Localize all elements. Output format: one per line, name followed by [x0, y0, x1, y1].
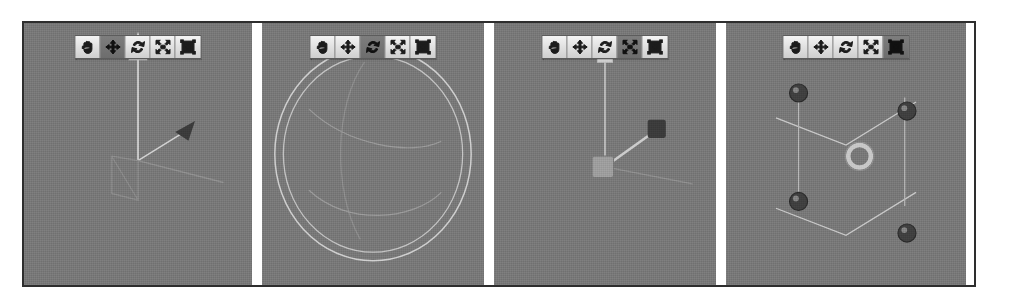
axis-z-arrow-head — [175, 121, 195, 141]
corner-handle-bottom-right[interactable] — [898, 224, 916, 242]
hand-icon — [314, 39, 331, 55]
rotation-ring-y — [309, 109, 441, 148]
rotate-icon — [364, 39, 381, 55]
panel-strip — [24, 23, 974, 285]
hand-icon — [79, 39, 96, 55]
rotate-icon — [837, 39, 854, 55]
trackball-inner-circle — [283, 56, 462, 252]
scale-icon — [389, 39, 406, 55]
scale-gizmo[interactable] — [592, 47, 692, 184]
toolbar-button-translate-tool[interactable] — [568, 36, 593, 58]
bounding-box-panel — [726, 23, 966, 285]
move-arrows-icon — [104, 39, 121, 55]
toolbar-button-pan-tool[interactable] — [784, 36, 809, 58]
center-cube-handle — [592, 156, 613, 177]
corner-handle-bottom-left-highlight — [793, 196, 799, 202]
toolbar-button-scale-tool[interactable] — [386, 36, 411, 58]
corner-handle-top-left-highlight — [793, 87, 799, 93]
bounding-box-icon — [415, 39, 432, 55]
corner-handle-top-left[interactable] — [790, 84, 808, 102]
bounding-box-gizmo[interactable] — [776, 84, 916, 242]
rotate-panel — [262, 23, 484, 285]
toolbar-button-bounding-box-tool[interactable] — [411, 36, 436, 58]
toolbar — [310, 35, 437, 59]
toolbar-button-rotate-tool[interactable] — [834, 36, 859, 58]
rotate-icon — [129, 39, 146, 55]
toolbar-button-scale-tool[interactable] — [859, 36, 884, 58]
toolbar-button-pan-tool[interactable] — [76, 36, 101, 58]
toolbar-button-bounding-box-tool[interactable] — [643, 36, 668, 58]
move-arrows-icon — [571, 39, 588, 55]
translate-panel — [24, 23, 252, 285]
rotate-icon — [596, 39, 613, 55]
toolbar — [542, 35, 669, 59]
panel-separator — [716, 23, 726, 285]
center-ring-handle[interactable] — [848, 145, 871, 168]
move-arrows-icon — [339, 39, 356, 55]
scale-icon — [621, 39, 638, 55]
toolbar-button-translate-tool[interactable] — [809, 36, 834, 58]
bounding-box-icon — [647, 39, 664, 55]
corner-handle-bottom-left[interactable] — [790, 192, 808, 210]
panel-separator — [252, 23, 262, 285]
scale-icon — [154, 39, 171, 55]
toolbar-button-translate-tool[interactable] — [101, 36, 126, 58]
axis-x — [605, 167, 693, 184]
rotation-ring-z — [309, 190, 441, 215]
toolbar — [783, 35, 910, 59]
bbox-edge-top — [776, 102, 916, 145]
bounding-box-icon — [888, 39, 905, 55]
toolbar-button-rotate-tool[interactable] — [593, 36, 618, 58]
bounding-box-icon — [180, 39, 197, 55]
toolbar-button-pan-tool[interactable] — [543, 36, 568, 58]
toolbar-button-scale-tool[interactable] — [618, 36, 643, 58]
viewport-scale-panel[interactable] — [494, 23, 716, 285]
toolbar-button-rotate-tool[interactable] — [361, 36, 386, 58]
scale-panel — [494, 23, 716, 285]
panel-separator — [484, 23, 494, 285]
move-arrows-icon — [812, 39, 829, 55]
hand-icon — [787, 39, 804, 55]
rotate-gizmo[interactable] — [275, 47, 471, 260]
toolbar-button-bounding-box-tool[interactable] — [884, 36, 909, 58]
corner-handle-top-right-highlight — [901, 105, 907, 111]
axis-x — [138, 161, 224, 183]
toolbar — [75, 35, 202, 59]
plane-handle-diagonal — [112, 156, 138, 200]
scale-icon — [862, 39, 879, 55]
toolbar-button-translate-tool[interactable] — [336, 36, 361, 58]
toolbar-button-pan-tool[interactable] — [311, 36, 336, 58]
toolbar-button-scale-tool[interactable] — [151, 36, 176, 58]
viewport-translate-panel[interactable] — [24, 23, 252, 285]
toolbar-button-rotate-tool[interactable] — [126, 36, 151, 58]
figure-frame — [22, 21, 976, 287]
toolbar-button-bounding-box-tool[interactable] — [176, 36, 201, 58]
viewport-rotate-panel[interactable] — [262, 23, 484, 285]
corner-handle-bottom-right-highlight — [901, 227, 907, 233]
axis-z-cube-handle — [648, 120, 666, 138]
corner-handle-top-right[interactable] — [898, 102, 916, 120]
viewport-bounding-box-panel[interactable] — [726, 23, 966, 285]
hand-icon — [546, 39, 563, 55]
axis-z — [138, 132, 184, 161]
trackball-outer-circle — [275, 47, 471, 260]
